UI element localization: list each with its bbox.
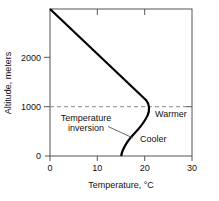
- plot-frame: [50, 9, 192, 156]
- x-tick-label-20: 20: [140, 163, 150, 173]
- temperature-profile-curve: [50, 9, 149, 156]
- inversion-leader-line: [108, 127, 133, 139]
- chart-figure: 0 10 20 30 0 1000 2000 Temperature, °C A…: [0, 0, 219, 201]
- x-tick-label-10: 10: [92, 163, 102, 173]
- x-axis-title: Temperature, °C: [88, 180, 154, 190]
- annotation-inversion-line1: Temperature: [61, 113, 112, 123]
- y-tick-label-1000: 1000: [21, 102, 41, 112]
- x-axis-top-ticks: [97, 9, 144, 15]
- y-axis-ticks: [44, 57, 50, 156]
- y-axis-title: Altitude, meters: [3, 51, 13, 114]
- y-tick-label-2000: 2000: [21, 53, 41, 63]
- x-tick-label-30: 30: [187, 163, 197, 173]
- x-axis-ticks: [50, 156, 192, 161]
- x-tick-label-0: 0: [47, 163, 52, 173]
- y-tick-label-0: 0: [36, 151, 41, 161]
- temperature-inversion-chart: 0 10 20 30 0 1000 2000 Temperature, °C A…: [0, 0, 219, 201]
- annotation-warmer: Warmer: [155, 109, 187, 119]
- annotation-cooler: Cooler: [140, 134, 167, 144]
- annotation-inversion-line2: inversion: [68, 123, 104, 133]
